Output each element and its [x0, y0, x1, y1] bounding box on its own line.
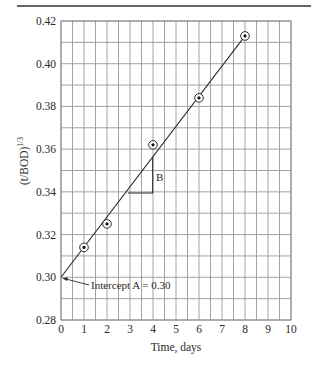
- x-tick-label: 1: [81, 323, 87, 335]
- grid: [61, 21, 291, 320]
- y-tick-label: 0.28: [36, 314, 56, 326]
- x-tick-label: 2: [104, 323, 110, 335]
- y-tick-label: 0.32: [36, 229, 56, 241]
- y-axis-title-exponent: 1/3: [16, 137, 25, 147]
- intercept-label: Intercept A = 0.30: [91, 279, 171, 291]
- y-axis-title: (t/BOD)1/3: [16, 137, 31, 185]
- y-tick-label: 0.40: [36, 58, 56, 70]
- y-tick-label: 0.42: [36, 15, 56, 27]
- y-tick-label: 0.30: [36, 271, 56, 283]
- y-axis-ticks: 0.280.300.320.340.360.380.400.42: [36, 15, 56, 326]
- data-point-marker: [195, 94, 204, 103]
- slope-triangle: B: [128, 157, 163, 193]
- chart: 0.280.300.320.340.360.380.400.42 0123456…: [0, 0, 311, 368]
- data-point-marker: [103, 220, 112, 229]
- x-tick-label: 3: [127, 323, 133, 335]
- x-axis-ticks: 012345678910: [58, 323, 297, 335]
- data-point-marker: [241, 32, 250, 41]
- data-point-marker: [149, 141, 158, 150]
- intercept-annotation: Intercept A = 0.30: [62, 278, 171, 292]
- x-tick-label: 5: [173, 323, 179, 335]
- y-tick-label: 0.38: [36, 100, 56, 112]
- x-tick-label: 4: [150, 323, 156, 335]
- svg-text:(t/BOD)1/3: (t/BOD)1/3: [16, 137, 31, 185]
- arrow-head-icon: [62, 278, 68, 282]
- y-tick-label: 0.36: [36, 143, 56, 155]
- y-axis-title-base: (t/BOD): [18, 146, 31, 185]
- x-axis-title: Time, days: [151, 341, 202, 354]
- data-point-marker: [80, 243, 89, 252]
- slope-label: B: [156, 171, 163, 183]
- x-tick-label: 8: [242, 323, 248, 335]
- x-tick-label: 9: [265, 323, 271, 335]
- x-tick-label: 0: [58, 323, 64, 335]
- x-tick-label: 7: [219, 323, 225, 335]
- y-tick-label: 0.34: [36, 186, 56, 198]
- x-tick-label: 10: [285, 323, 297, 335]
- x-tick-label: 6: [196, 323, 202, 335]
